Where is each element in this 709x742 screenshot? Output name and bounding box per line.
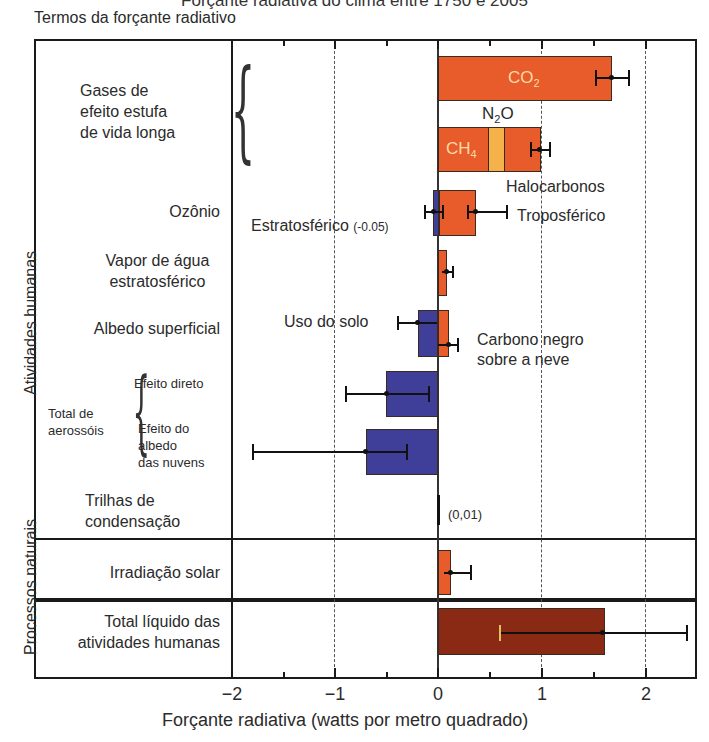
bar-land-use bbox=[418, 310, 438, 357]
errorbar-cap bbox=[442, 205, 444, 219]
errorbar-cap bbox=[595, 70, 597, 86]
errorbar-cloud-albedo bbox=[252, 451, 408, 453]
tick-top bbox=[593, 41, 595, 46]
row-label-aerosol-direct: Efeito direto bbox=[134, 375, 203, 392]
tick-label: 1 bbox=[522, 684, 562, 705]
errorbar-cap bbox=[424, 205, 426, 219]
chart-subtitle: Termos da forçante radiativo bbox=[34, 9, 236, 27]
errorbar-dot bbox=[537, 147, 542, 152]
tick-bottom bbox=[386, 672, 388, 678]
errorbar-dot bbox=[446, 342, 451, 347]
bar-black-carbon-snow bbox=[438, 310, 449, 357]
tick-top bbox=[283, 41, 285, 46]
errorbar-cap bbox=[686, 625, 688, 641]
label-tropospheric: Troposférico bbox=[517, 207, 605, 225]
errorbar-cap bbox=[470, 565, 472, 580]
errorbar-cap bbox=[397, 316, 399, 330]
errorbar-cap bbox=[345, 386, 347, 402]
errorbar-dot bbox=[444, 269, 449, 274]
errorbar-cap bbox=[406, 444, 408, 460]
bar-n2o bbox=[488, 127, 505, 172]
errorbar-cap bbox=[428, 386, 430, 402]
label-ch4: CH4 bbox=[446, 139, 477, 160]
brace-icon: { bbox=[231, 55, 256, 165]
tick-bottom bbox=[437, 668, 439, 678]
errorbar-cap bbox=[457, 338, 459, 352]
tick-bottom bbox=[334, 668, 336, 678]
gridline-2 bbox=[645, 41, 646, 677]
tick-top bbox=[437, 41, 439, 49]
group-label-natural: Processos naturais bbox=[22, 519, 40, 655]
errorbar-cap bbox=[499, 625, 501, 641]
group-label-human: Atividades humanas bbox=[22, 251, 40, 395]
row-label-ozone: Ozônio bbox=[100, 201, 220, 222]
tick-bottom bbox=[489, 672, 491, 678]
errorbar-net bbox=[499, 632, 687, 634]
x-axis-label: Forçante radiativa (watts por metro quad… bbox=[162, 710, 528, 731]
row-label-contrails: Trilhas de condensação bbox=[85, 490, 180, 532]
tick-label: −1 bbox=[315, 684, 355, 705]
tick-label: −2 bbox=[212, 684, 252, 705]
label-stratospheric: Estratosférico (-0.05) bbox=[251, 217, 389, 235]
row-label-net: Total líquido das atividades humanas bbox=[45, 611, 220, 653]
errorbar-cap bbox=[549, 142, 551, 157]
tick-top bbox=[541, 41, 543, 49]
errorbar-dot bbox=[609, 75, 614, 80]
errorbar-dot bbox=[473, 209, 478, 214]
row-label-cloud-albedo: Efeito do albedo das nuvens bbox=[138, 420, 205, 471]
row-label-water-vapor: Vapor de água estratosférico bbox=[95, 250, 220, 292]
row-label-aerosol-total: Total de aerossóis bbox=[48, 405, 104, 439]
errorbar-cap bbox=[467, 205, 469, 219]
row-label-ghg: Gases de efeito estufa de vida longa bbox=[80, 80, 175, 143]
errorbar-dot bbox=[600, 630, 605, 635]
label-contrails-value: (0,01) bbox=[448, 507, 482, 522]
gridline-minus1 bbox=[334, 41, 335, 677]
errorbar-dot bbox=[415, 320, 420, 325]
row-label-solar: Irradiação solar bbox=[60, 562, 220, 583]
tick-label: 0 bbox=[418, 684, 458, 705]
bar-ozone-trop bbox=[439, 190, 476, 236]
bar-contrails bbox=[437, 495, 440, 525]
tick-top bbox=[489, 41, 491, 46]
tick-top bbox=[645, 41, 647, 49]
tick-label: 2 bbox=[626, 684, 666, 705]
errorbar-dot bbox=[363, 449, 368, 454]
errorbar-dot bbox=[431, 209, 436, 214]
label-halocarbons: Halocarbonos bbox=[506, 178, 605, 196]
errorbar-dot bbox=[448, 570, 453, 575]
errorbar-cap bbox=[506, 205, 508, 219]
separator-natural bbox=[34, 538, 697, 540]
tick-bottom bbox=[593, 672, 595, 678]
tick-bottom bbox=[645, 668, 647, 678]
label-land-use: Uso do solo bbox=[284, 313, 369, 331]
errorbar-dot bbox=[384, 391, 389, 396]
tick-bottom bbox=[283, 672, 285, 678]
separator-net bbox=[34, 598, 697, 602]
tick-top bbox=[334, 41, 336, 49]
errorbar-cap bbox=[530, 142, 532, 157]
tick-bottom bbox=[541, 668, 543, 678]
errorbar-cap bbox=[252, 444, 254, 460]
errorbar-cap bbox=[628, 70, 630, 86]
label-co2: CO2 bbox=[508, 68, 540, 89]
tick-top bbox=[386, 41, 388, 46]
label-n2o: N2O bbox=[482, 104, 514, 125]
label-black-carbon-snow: Carbono negro sobre a neve bbox=[477, 330, 584, 370]
errorbar-cap bbox=[452, 266, 454, 278]
row-label-albedo: Albedo superficial bbox=[60, 318, 220, 339]
